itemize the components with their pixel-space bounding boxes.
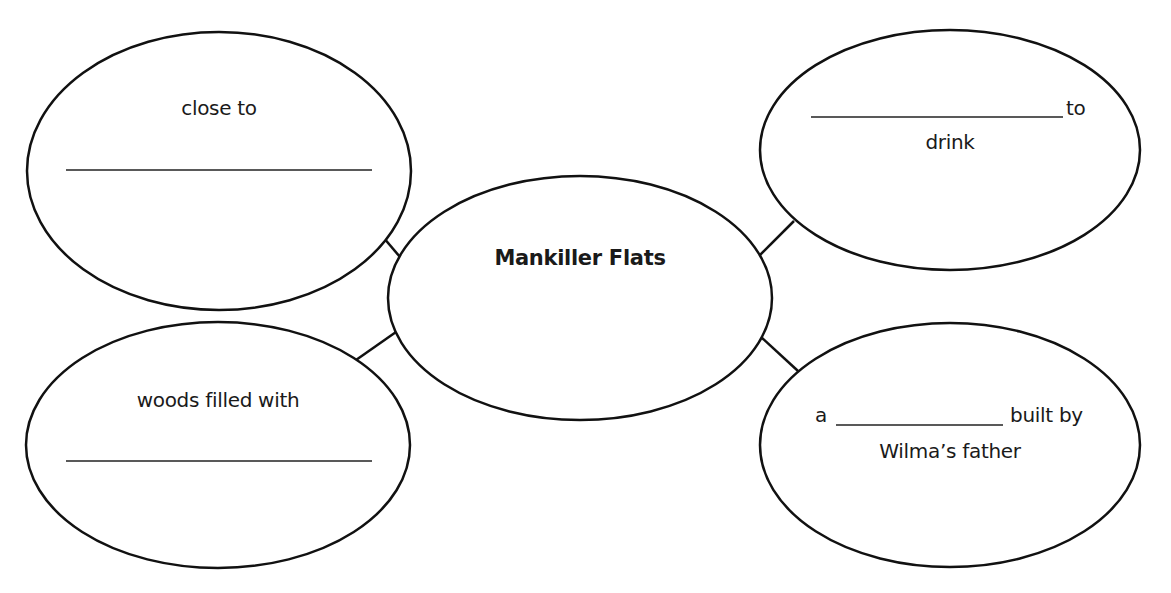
connector-top-right (759, 221, 794, 256)
node-bottom-left-text: woods filled with (68, 386, 368, 414)
node-top-left-text: close to (69, 94, 369, 122)
node-top-right-line2: drink (800, 128, 1100, 156)
web-diagram-lines (0, 0, 1171, 593)
node-top-right-after-blank: to (1066, 94, 1096, 122)
node-top-left-ellipse (27, 32, 411, 310)
connector-bottom-right (761, 337, 798, 371)
center-node-ellipse (388, 176, 772, 420)
connector-bottom-left (356, 332, 396, 360)
node-bottom-right-before-blank: a (815, 401, 835, 429)
node-bottom-right-line2: Wilma’s father (800, 437, 1100, 465)
center-node-label: Mankiller Flats (430, 244, 730, 272)
node-bottom-left-ellipse (26, 322, 410, 568)
node-bottom-right-after-blank: built by (1010, 401, 1100, 429)
